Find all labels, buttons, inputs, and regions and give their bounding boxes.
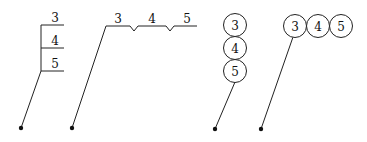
leader-dot <box>70 126 74 130</box>
callout-vertical-underline: 3 4 5 <box>19 11 64 130</box>
leader-line <box>21 71 41 128</box>
label-3: 3 <box>114 12 122 26</box>
leader-line <box>72 26 106 128</box>
label-5: 5 <box>231 65 239 79</box>
leader-line <box>261 37 293 129</box>
label-4: 4 <box>148 12 156 26</box>
label-3: 3 <box>231 19 239 33</box>
callout-diagram: 3 4 5 3 4 5 3 4 5 3 4 5 <box>0 0 367 142</box>
label-4: 4 <box>314 20 322 34</box>
leader-dot <box>19 126 23 130</box>
label-3: 3 <box>291 20 299 34</box>
label-5: 5 <box>51 57 59 71</box>
notched-underline <box>106 26 197 31</box>
leader-dot <box>259 127 263 131</box>
callout-vertical-circles: 3 4 5 <box>213 14 247 132</box>
callout-horizontal-circles: 3 4 5 <box>259 15 353 132</box>
label-3: 3 <box>51 11 59 25</box>
leader-line <box>215 82 235 129</box>
label-4: 4 <box>51 34 59 48</box>
leader-dot <box>213 127 217 131</box>
callout-horizontal-underline: 3 4 5 <box>70 12 197 130</box>
label-5: 5 <box>183 12 191 26</box>
label-5: 5 <box>337 20 345 34</box>
label-4: 4 <box>231 42 239 56</box>
